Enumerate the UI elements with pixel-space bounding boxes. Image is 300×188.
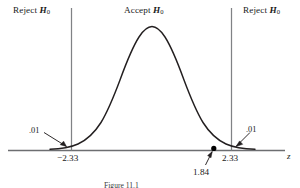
x-tick-label-negative-critical: −2.33: [57, 154, 78, 163]
null-hypothesis-symbol-left: H: [39, 5, 46, 15]
alpha-label-left: .01: [29, 127, 39, 135]
statistics-figure: Reject H0 Accept H0 Reject H0 .01 .01 −2…: [0, 0, 300, 188]
figure-caption: Figure 11.1: [104, 182, 139, 188]
null-hypothesis-subscript-left: 0: [47, 8, 50, 15]
null-hypothesis-subscript-center: 0: [160, 8, 163, 15]
region-label-accept: Accept H0: [124, 6, 164, 16]
test-statistic-leader-arrow: [206, 152, 213, 165]
test-statistic-label: 1.84: [193, 168, 209, 177]
alpha-right-leader-arrow: [236, 133, 250, 147]
x-axis-variable-label: z: [287, 152, 291, 161]
alpha-left-leader-arrow: [44, 133, 67, 147]
x-tick-label-positive-critical: 2.33: [222, 154, 238, 163]
normal-distribution-curve: [50, 27, 255, 150]
alpha-label-right: .01: [246, 126, 256, 134]
region-label-reject-right: Reject H0: [243, 6, 280, 16]
test-statistic-marker: [211, 146, 216, 151]
null-hypothesis-symbol-right: H: [269, 5, 276, 15]
region-label-reject-right-text: Reject: [243, 5, 267, 15]
null-hypothesis-subscript-right: 0: [277, 8, 280, 15]
region-label-accept-text: Accept: [124, 5, 151, 15]
region-label-reject-left: Reject H0: [13, 6, 50, 16]
region-label-reject-left-text: Reject: [13, 5, 37, 15]
figure-canvas: [0, 0, 300, 188]
